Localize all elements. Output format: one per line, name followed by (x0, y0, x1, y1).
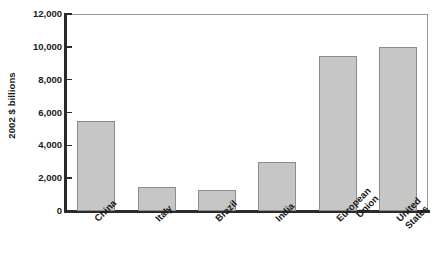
y-axis-tick-label: 6,000 (18, 107, 62, 119)
y-axis-tick-label-text: 0 (18, 205, 62, 216)
y-axis-tick (66, 112, 72, 114)
y-axis-tick-label-text: 6,000 (18, 107, 62, 118)
plot-area (66, 14, 428, 211)
y-axis-tick-label: 12,000 (18, 8, 62, 20)
y-axis-tick (66, 210, 72, 212)
y-axis-title-text: 2002 $ billions (6, 72, 17, 138)
y-axis-tick-label-text: 10,000 (18, 41, 62, 52)
y-axis-tick (66, 13, 72, 15)
bar-chart: 2002 $ billions 02,0004,0006,0008,00010,… (0, 0, 443, 263)
y-axis-tick (66, 79, 72, 81)
y-axis-tick (66, 177, 72, 179)
y-axis-tick-label: 0 (18, 205, 62, 217)
y-axis-tick (66, 145, 72, 147)
y-axis-tick-label-text: 8,000 (18, 74, 62, 85)
y-axis-tick-label: 8,000 (18, 74, 62, 86)
y-axis-tick-label: 10,000 (18, 41, 62, 53)
y-axis-tick-label-text: 12,000 (18, 8, 62, 19)
y-axis-tick (66, 46, 72, 48)
y-axis-tick-label: 4,000 (18, 139, 62, 151)
y-axis-tick-label-text: 4,000 (18, 139, 62, 150)
y-axis-tick-label: 2,000 (18, 172, 62, 184)
y-axis-tick-label-text: 2,000 (18, 172, 62, 183)
x-axis-line (64, 210, 430, 213)
